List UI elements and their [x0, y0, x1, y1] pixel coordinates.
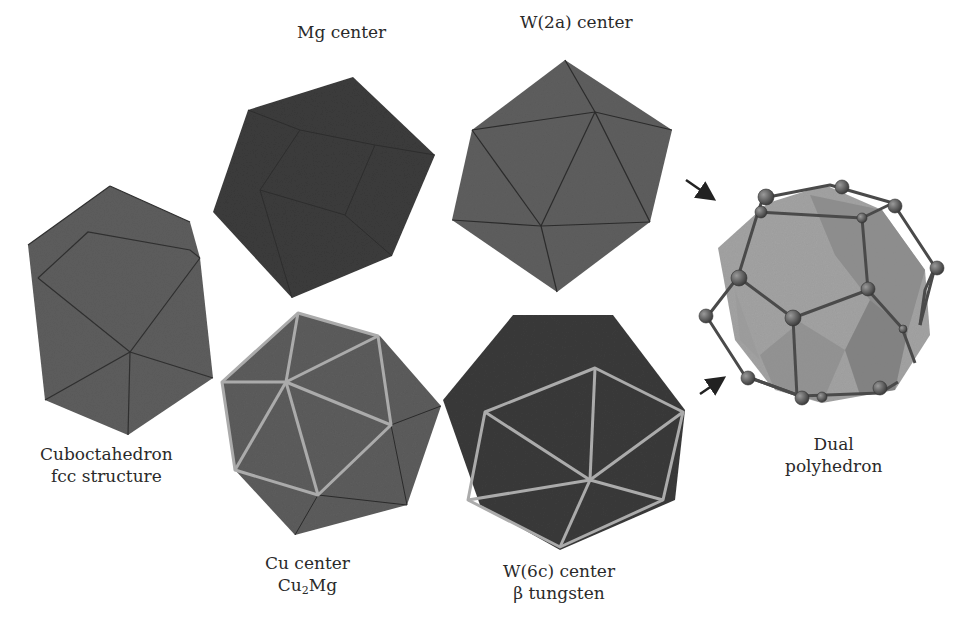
mg-center-shape — [213, 77, 435, 298]
label-cuboctahedron: Cuboctahedron fcc structure — [40, 443, 173, 487]
label-w2a-center: W(2a) center — [520, 11, 633, 33]
dual-subtitle: polyhedron — [785, 455, 882, 477]
arrow-top — [686, 180, 712, 198]
cu-formula-main: Cu — [278, 575, 302, 595]
w2a-center-text: W(2a) center — [520, 11, 633, 33]
dual-polyhedron-shape — [699, 180, 944, 405]
cu-center-title: Cu center — [265, 552, 350, 574]
label-dual-polyhedron: Dual polyhedron — [785, 433, 882, 477]
w6c-center-subtitle: β tungsten — [503, 582, 615, 604]
cuboctahedron-title: Cuboctahedron — [40, 443, 173, 465]
w2a-center-shape — [452, 60, 672, 292]
cu-center-shape — [222, 313, 441, 535]
label-cu-center: Cu center Cu2Mg — [265, 552, 350, 596]
label-mg-center: Mg center — [297, 21, 386, 43]
cu-formula-end: Mg — [309, 575, 337, 595]
cuboctahedron-shape — [28, 186, 213, 435]
arrow-bottom — [700, 379, 722, 394]
w6c-center-shape — [443, 315, 685, 550]
w6c-center-title: W(6c) center — [503, 560, 615, 582]
label-w6c-center: W(6c) center β tungsten — [503, 560, 615, 604]
dual-title: Dual — [785, 433, 882, 455]
polyhedra-figure — [0, 0, 975, 632]
mg-center-text: Mg center — [297, 21, 386, 43]
cu-center-subtitle: Cu2Mg — [265, 574, 350, 596]
cu-formula-sub: 2 — [302, 584, 309, 597]
cuboctahedron-subtitle: fcc structure — [40, 465, 173, 487]
